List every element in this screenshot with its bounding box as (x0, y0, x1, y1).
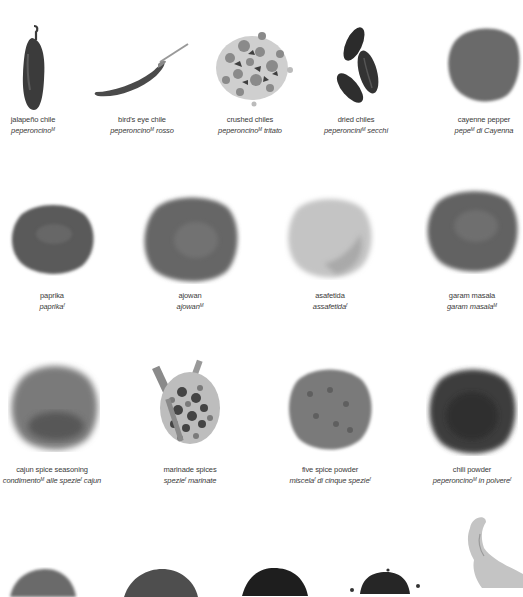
dried-chiles-icon (330, 24, 386, 106)
five-spice-powder-icon (286, 364, 374, 452)
english-name: cayenne pepper (458, 115, 510, 124)
ginger-root-icon (462, 514, 523, 588)
italian-name: spezief marinate (163, 475, 216, 486)
english-name: marinade spices (163, 465, 216, 474)
chili-powder-icon (426, 364, 518, 456)
italian-name: assafetidaf (313, 301, 347, 312)
label-asafetida: asafetida assafetidaf (313, 290, 347, 312)
english-name: dried chiles (338, 115, 375, 124)
italian-name: peperonciniM secchi (324, 125, 388, 136)
label-birds-eye-chile: bird's eye chile peperoncinoM rosso (110, 114, 174, 136)
english-name: paprika (40, 291, 64, 300)
italian-name: peperoncinoM in polveref (433, 475, 512, 486)
english-name: bird's eye chile (118, 115, 166, 124)
english-name: garam masala (449, 291, 495, 300)
italian-name: garam masalaM (447, 301, 497, 312)
seeds-mound-icon (348, 568, 420, 594)
garam-masala-powder-icon (424, 186, 522, 274)
spice-mound-icon (6, 567, 78, 597)
italian-name: peperoncinoM rosso (110, 125, 174, 136)
paprika-powder-icon (8, 200, 98, 276)
jalapeno-icon (18, 24, 50, 112)
label-ajowan: ajowan ajowanM (177, 290, 204, 312)
italian-name: pepeM di Cayenna (455, 125, 514, 136)
marinade-spices-icon (152, 358, 228, 454)
italian-name: miscelaf di cinque spezief (289, 475, 370, 486)
english-name: cajun spice seasoning (16, 465, 88, 474)
label-five-spice-powder: five spice powder miscelaf di cinque spe… (289, 464, 370, 486)
italian-name: ajowanM (177, 301, 204, 312)
english-name: jalapeño chile (11, 115, 55, 124)
english-name: ajowan (178, 291, 201, 300)
cajun-seasoning-icon (8, 360, 100, 452)
label-chili-powder: chili powder peperoncinoM in polveref (433, 464, 512, 486)
italian-name: peperoncinoM (11, 125, 55, 136)
italian-name: condimentoM alle spezief cajun (3, 475, 101, 486)
label-marinade-spices: marinade spices spezief marinate (163, 464, 216, 486)
label-paprika: paprika paprikaf (39, 290, 64, 312)
english-name: asafetida (315, 291, 345, 300)
english-name: crushed chiles (227, 115, 274, 124)
birds-eye-chile-icon (92, 40, 192, 100)
label-cayenne-pepper: cayenne pepper pepeM di Cayenna (455, 114, 514, 136)
spice-mound-icon (240, 566, 310, 596)
label-garam-masala: garam masala garam masalaM (447, 290, 497, 312)
italian-name: paprikaf (39, 301, 64, 312)
label-crushed-chiles: crushed chiles peperoncinoM tritato (218, 114, 282, 136)
label-jalapeno: jalapeño chile peperoncinoM (11, 114, 55, 136)
asafetida-powder-icon (284, 194, 376, 280)
italian-name: peperoncinoM tritato (218, 125, 282, 136)
label-cajun-spice-seasoning: cajun spice seasoning condimentoM alle s… (3, 464, 101, 486)
english-name: chili powder (453, 465, 491, 474)
label-dried-chiles: dried chiles peperonciniM secchi (324, 114, 388, 136)
cayenne-powder-icon (446, 22, 522, 104)
ajowan-powder-icon (140, 192, 242, 284)
english-name: five spice powder (302, 465, 358, 474)
spice-mound-icon (122, 567, 200, 597)
crushed-chiles-icon (210, 18, 295, 108)
